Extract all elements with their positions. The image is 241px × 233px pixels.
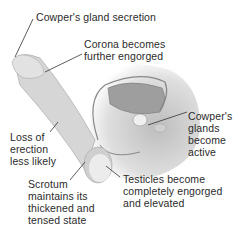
- label-testicles-engorged: Testicles become completely engorged and…: [123, 173, 222, 209]
- cowpers-gland-shape: [133, 114, 147, 126]
- label-scrotum-state: Scrotum maintains its thickened and tens…: [28, 178, 95, 226]
- label-cowpers-glands-active: Cowper's glands become active: [188, 110, 232, 158]
- label-corona-engorged: Corona becomes further engorged: [84, 38, 165, 62]
- label-loss-of-erection: Loss of erection less likely: [10, 131, 56, 167]
- label-cowpers-gland-secretion: Cowper's gland secretion: [36, 11, 156, 23]
